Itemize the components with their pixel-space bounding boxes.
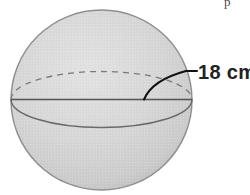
sphere-figure-svg: 18 cm p: [0, 0, 250, 195]
sphere-figure: 18 cm p: [0, 0, 250, 195]
cropped-glyph-artifact: p: [224, 0, 231, 9]
radius-label: 18 cm: [198, 61, 250, 83]
